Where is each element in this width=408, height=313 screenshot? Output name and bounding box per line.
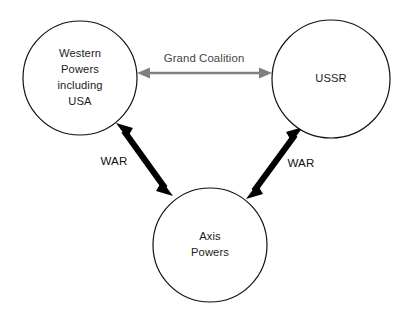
western-powers-label-line-2: Powers [61,63,99,75]
edge-grand-coalition [137,68,272,79]
node-axis-powers[interactable]: Axis Powers [153,188,267,302]
western-powers-label-line-3: including [57,79,102,91]
western-powers-label-line-4: USA [68,95,92,107]
diagram-svg: Western Powers including USA USSR Axis P… [0,0,408,313]
axis-powers-label-line-1: Axis [199,230,221,242]
ussr-label: USSR [315,72,346,84]
western-powers-label-line-1: Western [59,47,101,59]
grand-coalition-label: Grand Coalition [164,52,245,64]
grand-coalition-arrowhead-right [259,68,272,79]
war-west-axis-label: WAR [100,154,127,167]
grand-coalition-arrowhead-left [137,68,150,79]
node-ussr[interactable]: USSR [272,20,390,138]
node-western-powers[interactable]: Western Powers including USA [23,21,137,135]
diagram-canvas: Western Powers including USA USSR Axis P… [0,0,408,313]
war-ussr-axis-label: WAR [287,156,314,169]
war-west-axis-shaft [124,131,165,188]
axis-powers-label-line-2: Powers [191,246,229,258]
